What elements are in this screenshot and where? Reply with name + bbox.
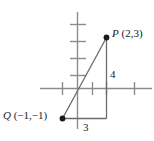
point-q-coords: (−1,−1) bbox=[14, 109, 47, 121]
horizontal-leg-length-label: 3 bbox=[83, 122, 89, 133]
point-q-name: Q bbox=[3, 109, 11, 121]
point-p-name: P bbox=[112, 27, 119, 39]
figure-container: P (2,3) Q (−1,−1) 4 3 bbox=[0, 0, 154, 141]
vertical-leg-length-label: 4 bbox=[110, 69, 116, 80]
point-p-coords: (2,3) bbox=[121, 27, 142, 39]
point-q-label: Q (−1,−1) bbox=[3, 110, 47, 121]
point-p-label: P (2,3) bbox=[112, 28, 143, 39]
hypotenuse-segment bbox=[63, 38, 107, 119]
point-p-marker bbox=[104, 35, 110, 41]
point-q-marker bbox=[60, 116, 66, 122]
